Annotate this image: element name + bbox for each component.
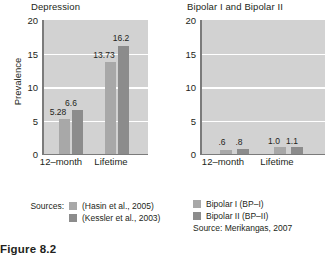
depression-xtick-12month: 12–month <box>36 156 86 167</box>
legend-label-hasin: (Hasin et al., 2005) <box>82 200 154 212</box>
legend-label-bipolar-2: Bipolar II (BP–II) <box>206 210 268 222</box>
barvalue-bipolar-12month-bp2: .8 <box>229 138 249 147</box>
bipolar-xtick-lifetime: Lifetime <box>252 156 302 167</box>
legend-row: Bipolar II (BP–II) <box>193 210 292 222</box>
bipolar-source-note: Source: Merikangas, 2007 <box>193 222 292 234</box>
depression-chart-panel: Depression Prevalence 20 15 10 5 0 5.28 … <box>0 0 160 192</box>
depression-x-axis-line <box>42 154 148 156</box>
depression-ytick-10: 10 <box>8 83 38 93</box>
depression-ytick-20: 20 <box>8 16 38 26</box>
bipolar-chart-title: Bipolar I and Bipolar II <box>187 1 283 12</box>
legend-row: (Kessler et al., 2003) <box>20 212 160 224</box>
charts-row: Depression Prevalence 20 15 10 5 0 5.28 … <box>0 0 325 192</box>
bipolar-ytick-15: 15 <box>166 50 196 60</box>
bipolar-y-axis-line <box>200 20 202 155</box>
bipolar-ytick-5: 5 <box>166 117 196 127</box>
barvalue-bipolar-lifetime-bp2: 1.1 <box>281 137 303 146</box>
figure-caption: Figure 8.2 <box>0 243 56 255</box>
depression-y-axis-line <box>42 20 44 155</box>
bipolar-ytick-0: 0 <box>166 150 196 160</box>
gridline-15 <box>201 54 325 56</box>
bipolar-x-axis-line <box>200 154 325 156</box>
gridline-10 <box>201 87 325 89</box>
legend-swatch-icon <box>69 202 77 210</box>
bar-depression-lifetime-hasin <box>105 62 116 154</box>
barvalue-depression-12month-kessler: 6.6 <box>60 99 82 108</box>
bar-depression-12month-kessler <box>72 110 83 154</box>
legend-swatch-icon <box>193 212 201 220</box>
barvalue-depression-lifetime-kessler: 16.2 <box>109 34 133 43</box>
depression-ytick-5: 5 <box>8 117 38 127</box>
depression-legend: Sources: (Hasin et al., 2005) (Kessler e… <box>20 200 160 224</box>
bipolar-chart-panel: Bipolar I and Bipolar II 20 15 10 5 0 .6… <box>165 0 325 192</box>
legend-label-bipolar-1: Bipolar I (BP–I) <box>206 198 264 210</box>
bipolar-ytick-10: 10 <box>166 83 196 93</box>
bar-depression-12month-hasin <box>59 119 70 154</box>
gridline-5 <box>201 121 325 123</box>
barvalue-depression-12month-hasin: 5.28 <box>47 108 69 117</box>
depression-ytick-0: 0 <box>8 150 38 160</box>
legend-swatch-icon <box>193 200 201 208</box>
gridline-10 <box>43 87 148 89</box>
bipolar-xtick-12month: 12–month <box>198 156 248 167</box>
bipolar-plot-area <box>201 20 325 154</box>
bipolar-legend: Bipolar I (BP–I) Bipolar II (BP–II) Sour… <box>193 198 292 234</box>
sources-heading: Sources: <box>20 200 69 212</box>
depression-xtick-lifetime: Lifetime <box>86 156 136 167</box>
bipolar-ytick-20: 20 <box>166 16 196 26</box>
depression-ytick-15: 15 <box>8 50 38 60</box>
barvalue-depression-lifetime-hasin: 13.73 <box>91 51 117 60</box>
depression-chart-title: Depression <box>31 1 80 12</box>
bar-depression-lifetime-kessler <box>118 46 129 155</box>
legend-row: Sources: (Hasin et al., 2005) <box>20 200 160 212</box>
legend-row: Bipolar I (BP–I) <box>193 198 292 210</box>
legend-label-kessler: (Kessler et al., 2003) <box>82 212 160 224</box>
legend-swatch-icon <box>69 214 77 222</box>
